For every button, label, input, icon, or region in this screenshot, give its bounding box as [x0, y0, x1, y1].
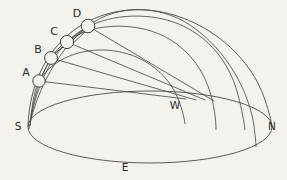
horizon-ellipse	[28, 91, 272, 163]
celestial-sphere-svg: A B C D S W N E	[0, 0, 287, 180]
chord-b-to-west	[51, 58, 196, 100]
node-label-c: C	[50, 25, 58, 38]
node-circle-b[interactable]	[45, 52, 58, 65]
cardinal-label-north: N	[268, 120, 276, 132]
meridian-dome-outline	[28, 10, 272, 127]
node-circle-c[interactable]	[60, 35, 73, 48]
chord-a-to-west	[39, 81, 186, 99]
chord-d-to-west	[88, 26, 214, 101]
node-label-b: B	[34, 43, 42, 56]
node-circle-d[interactable]	[81, 19, 95, 33]
cardinal-label-group: S W N E	[15, 99, 276, 173]
sun-path-arc-b	[30, 26, 216, 130]
node-label-d: D	[73, 7, 81, 20]
cardinal-label-west: W	[170, 99, 181, 111]
cardinal-label-south: S	[15, 120, 22, 132]
sun-path-arc-group	[29, 10, 256, 147]
node-circle-group	[33, 19, 95, 87]
sun-path-diagram: A B C D S W N E	[0, 0, 287, 180]
cardinal-label-east: E	[122, 161, 129, 173]
node-circle-a[interactable]	[33, 75, 45, 87]
node-label-a: A	[22, 66, 30, 79]
sun-path-arc-d	[29, 10, 256, 147]
